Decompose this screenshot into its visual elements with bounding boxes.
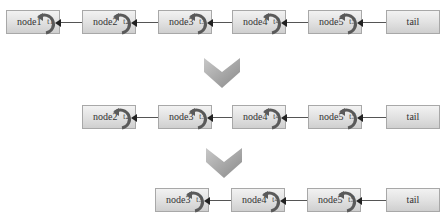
pointer-label: t5 bbox=[349, 16, 356, 26]
link-line bbox=[136, 117, 158, 118]
arrowhead-icon bbox=[131, 114, 137, 122]
list-row-1: node1 t1 node2 t2 node3 t3 node4 t4 node… bbox=[0, 10, 443, 36]
pointer-label: t4 bbox=[273, 16, 280, 26]
list-node-node3: node3 t3 bbox=[158, 105, 212, 129]
pointer-label: t4 bbox=[273, 111, 280, 121]
list-node-node1: node1 t1 bbox=[6, 10, 60, 34]
arrowhead-icon bbox=[55, 19, 61, 27]
list-node-tail: tail bbox=[386, 105, 440, 129]
pointer-label: t4 bbox=[272, 194, 279, 204]
node-label: tail bbox=[387, 16, 439, 27]
list-node-node5: node5 t5 bbox=[308, 105, 362, 129]
list-node-node5: node5 t5 bbox=[308, 10, 362, 34]
list-node-node5: node5 t5 bbox=[307, 188, 361, 212]
link-line bbox=[212, 117, 232, 118]
chevron-down-icon bbox=[206, 148, 242, 178]
list-node-tail: tail bbox=[386, 188, 440, 212]
list-node-tail: tail bbox=[386, 10, 440, 34]
node-label: tail bbox=[387, 194, 439, 205]
list-node-node3: node3 t3 bbox=[155, 188, 209, 212]
list-node-node3: node3 t3 bbox=[158, 10, 212, 34]
arrowhead-icon bbox=[207, 114, 213, 122]
link-line bbox=[362, 117, 386, 118]
link-line bbox=[212, 22, 232, 23]
arrowhead-icon bbox=[281, 114, 287, 122]
list-node-node4: node4 t4 bbox=[231, 188, 285, 212]
list-node-node4: node4 t4 bbox=[232, 10, 286, 34]
chevron-down-icon bbox=[204, 58, 240, 88]
pointer-label: t3 bbox=[199, 16, 206, 26]
arrowhead-icon bbox=[357, 19, 363, 27]
list-row-3: node3 t3 node4 t4 node5 t5 tail bbox=[0, 188, 443, 214]
list-row-2: node2 t2 node3 t3 node4 t4 node5 t5 tail bbox=[0, 105, 443, 131]
pointer-label: t5 bbox=[348, 194, 355, 204]
pointer-label: t5 bbox=[349, 111, 356, 121]
arrowhead-icon bbox=[357, 114, 363, 122]
arrowhead-icon bbox=[204, 197, 210, 205]
pointer-label: t2 bbox=[123, 111, 130, 121]
link-line bbox=[60, 22, 82, 23]
arrowhead-icon bbox=[281, 19, 287, 27]
link-line bbox=[209, 200, 231, 201]
link-line bbox=[286, 22, 308, 23]
node-label: tail bbox=[387, 111, 439, 122]
link-line bbox=[285, 200, 307, 201]
pointer-label: t2 bbox=[123, 16, 130, 26]
pointer-label: t3 bbox=[199, 111, 206, 121]
list-node-node2: node2 t2 bbox=[82, 105, 136, 129]
link-line bbox=[136, 22, 158, 23]
pointer-label: t3 bbox=[196, 194, 203, 204]
link-line bbox=[362, 22, 386, 23]
list-node-node2: node2 t2 bbox=[82, 10, 136, 34]
arrowhead-icon bbox=[131, 19, 137, 27]
link-line bbox=[361, 200, 386, 201]
arrowhead-icon bbox=[207, 19, 213, 27]
link-line bbox=[286, 117, 308, 118]
pointer-label: t1 bbox=[47, 16, 54, 26]
arrowhead-icon bbox=[356, 197, 362, 205]
list-node-node4: node4 t4 bbox=[232, 105, 286, 129]
arrowhead-icon bbox=[280, 197, 286, 205]
